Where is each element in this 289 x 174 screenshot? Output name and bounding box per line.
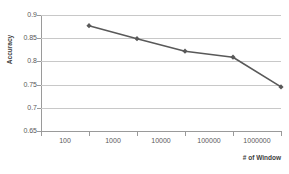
plot-area xyxy=(41,15,281,131)
y-tick-label-2: 0.8 xyxy=(9,57,37,64)
series-accuracy xyxy=(41,15,281,131)
y-axis-title: Accuracy xyxy=(6,22,13,78)
x-axis-title: # of Window xyxy=(243,154,281,161)
x-tick-mark-1 xyxy=(137,132,138,136)
data-point-1 xyxy=(134,36,139,41)
accuracy-vs-window-line-chart: 0.9 0.85 0.8 0.75 0.7 0.65 Accuracy 100 … xyxy=(0,0,289,174)
y-tick-label-4: 0.7 xyxy=(9,104,37,111)
x-tick-mark-start xyxy=(41,132,42,136)
x-axis-line xyxy=(41,131,282,132)
data-point-0 xyxy=(86,23,91,28)
y-tick-label-5: 0.65 xyxy=(9,127,37,134)
series-line xyxy=(89,26,281,87)
data-point-2 xyxy=(182,49,187,54)
y-tick-label-1: 0.85 xyxy=(9,34,37,41)
y-tick-label-0: 0.9 xyxy=(9,11,37,18)
x-tick-mark-2 xyxy=(185,132,186,136)
x-tick-label-4: 1000000 xyxy=(227,137,287,145)
x-tick-mark-3 xyxy=(233,132,234,136)
y-tick-label-3: 0.75 xyxy=(9,81,37,88)
x-tick-mark-0 xyxy=(89,132,90,136)
x-tick-mark-end xyxy=(281,132,282,136)
